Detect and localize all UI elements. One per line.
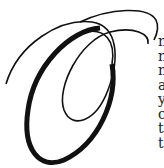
text-line: t	[158, 121, 164, 136]
text-line: y	[158, 92, 164, 107]
text-line: n	[158, 49, 164, 64]
text-line: t	[158, 136, 164, 151]
text-line: a	[158, 78, 164, 93]
text-line: c	[158, 107, 164, 122]
text-line: n	[158, 63, 164, 78]
body-text-column: n n n a y c t t	[158, 34, 164, 150]
text-line: n	[158, 34, 164, 49]
ornamental-dropcap-o-icon	[0, 0, 164, 168]
